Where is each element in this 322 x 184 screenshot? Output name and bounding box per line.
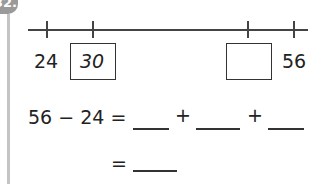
plus-sign-2: + xyxy=(247,104,263,126)
number-line-axis xyxy=(28,29,308,31)
question-margin-bar xyxy=(7,14,10,184)
blank-result[interactable] xyxy=(133,170,177,172)
equals-sign: = xyxy=(111,152,127,174)
blank-2[interactable] xyxy=(196,128,240,130)
tick-start xyxy=(46,21,48,38)
tick-end xyxy=(293,21,295,38)
plus-sign-1: + xyxy=(175,104,191,126)
answer-box-2[interactable] xyxy=(226,43,272,80)
answer-box-1-value: 30 xyxy=(80,50,104,72)
equation-lhs: 56 − 24 = xyxy=(28,106,126,128)
blank-3[interactable] xyxy=(268,128,304,130)
tick-third xyxy=(247,21,249,38)
end-label: 56 xyxy=(282,50,306,72)
question-number-badge: 32. xyxy=(0,0,18,14)
start-label: 24 xyxy=(34,50,58,72)
tick-second xyxy=(92,21,94,38)
blank-1[interactable] xyxy=(133,128,169,130)
